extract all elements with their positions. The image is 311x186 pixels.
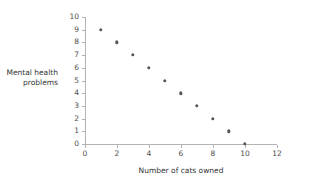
data-point — [243, 142, 246, 145]
y-tick-label: 0 — [60, 140, 79, 148]
y-tick-mark — [82, 42, 85, 43]
y-tick-label: 8 — [60, 38, 79, 46]
x-tick-mark — [245, 145, 246, 148]
y-axis-title: Mental health problems — [4, 68, 58, 88]
y-axis-line — [85, 17, 86, 145]
data-point — [131, 53, 134, 56]
x-tick-label: 10 — [237, 150, 253, 158]
data-point — [179, 91, 182, 94]
y-tick-label: 3 — [60, 102, 79, 110]
y-tick-mark — [82, 17, 85, 18]
x-tick-label: 12 — [269, 150, 285, 158]
x-tick-mark — [277, 145, 278, 148]
y-tick-label: 6 — [60, 64, 79, 72]
x-tick-label: 6 — [173, 150, 189, 158]
y-tick-mark — [82, 81, 85, 82]
x-tick-label: 2 — [109, 150, 125, 158]
data-point — [115, 41, 118, 44]
data-point — [147, 66, 150, 69]
x-axis-title: Number of cats owned — [85, 167, 277, 175]
y-tick-mark — [82, 131, 85, 132]
x-tick-label: 8 — [205, 150, 221, 158]
x-tick-label: 4 — [141, 150, 157, 158]
y-tick-label: 5 — [60, 77, 79, 85]
x-tick-mark — [85, 145, 86, 148]
y-tick-label: 10 — [60, 13, 79, 21]
y-axis-title-line-1: Mental health — [4, 68, 58, 78]
y-tick-mark — [82, 106, 85, 107]
y-tick-mark — [82, 68, 85, 69]
y-tick-label: 4 — [60, 89, 79, 97]
y-tick-label: 1 — [60, 127, 79, 135]
data-point — [211, 117, 214, 120]
data-point — [163, 79, 166, 82]
y-tick-mark — [82, 30, 85, 31]
data-point — [99, 28, 102, 31]
y-tick-mark — [82, 55, 85, 56]
y-axis-title-line-2: problems — [4, 78, 58, 88]
scatter-chart: 012345678910 024681012 Mental health pro… — [0, 0, 311, 186]
y-tick-label: 2 — [60, 115, 79, 123]
y-tick-mark — [82, 93, 85, 94]
y-tick-label: 9 — [60, 26, 79, 34]
x-tick-mark — [117, 145, 118, 148]
x-tick-mark — [149, 145, 150, 148]
y-tick-label: 7 — [60, 51, 79, 59]
x-tick-mark — [181, 145, 182, 148]
y-tick-mark — [82, 119, 85, 120]
x-tick-mark — [213, 145, 214, 148]
data-point — [227, 130, 230, 133]
x-tick-label: 0 — [77, 150, 93, 158]
data-point — [195, 104, 198, 107]
